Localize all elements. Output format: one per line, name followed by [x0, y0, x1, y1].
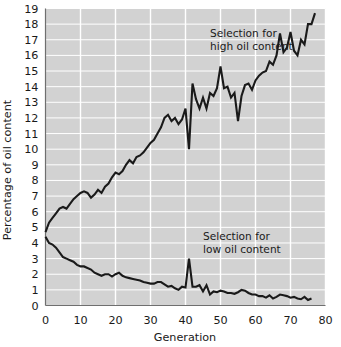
chart-figure: 012345678910111213141516171819 010203040… — [0, 0, 341, 347]
y-axis-title: Percentage of oil content — [1, 99, 14, 240]
y-tick-label: 4 — [31, 237, 38, 250]
y-tick-label: 13 — [24, 96, 38, 109]
high-selection-label-line: Selection for — [210, 27, 277, 39]
x-axis-tick-labels: 01020304050607080 — [42, 314, 333, 327]
y-tick-label: 9 — [31, 159, 38, 172]
y-tick-label: 11 — [24, 128, 38, 141]
y-tick-label: 1 — [31, 284, 38, 297]
low-selection-label-line: Selection for — [203, 230, 270, 242]
x-tick-label: 20 — [108, 314, 122, 327]
y-tick-label: 16 — [24, 49, 38, 62]
x-tick-label: 50 — [213, 314, 227, 327]
low-selection-label: Selection forlow oil content — [203, 230, 281, 255]
y-tick-label: 6 — [31, 206, 38, 219]
y-tick-label: 14 — [24, 81, 38, 94]
y-tick-label: 2 — [31, 268, 38, 281]
y-tick-label: 19 — [24, 3, 38, 16]
y-tick-label: 3 — [31, 253, 38, 266]
y-tick-label: 0 — [31, 300, 38, 313]
y-tick-label: 7 — [31, 190, 38, 203]
x-tick-label: 70 — [283, 314, 297, 327]
x-tick-label: 30 — [143, 314, 157, 327]
x-tick-label: 40 — [178, 314, 192, 327]
y-tick-label: 18 — [24, 18, 38, 31]
y-tick-label: 8 — [31, 174, 38, 187]
x-tick-label: 10 — [73, 314, 87, 327]
x-tick-label: 0 — [42, 314, 49, 327]
x-tick-label: 60 — [248, 314, 262, 327]
y-tick-label: 5 — [31, 221, 38, 234]
x-axis-title: Generation — [154, 331, 216, 344]
y-tick-label: 12 — [24, 112, 38, 125]
low-selection-label-line: low oil content — [203, 243, 281, 255]
oil-content-line-chart: 012345678910111213141516171819 010203040… — [0, 0, 341, 347]
x-tick-label: 80 — [318, 314, 332, 327]
y-tick-label: 10 — [24, 143, 38, 156]
high-selection-label-line: high oil content — [210, 40, 293, 52]
y-tick-label: 17 — [24, 34, 38, 47]
y-tick-label: 15 — [24, 65, 38, 78]
